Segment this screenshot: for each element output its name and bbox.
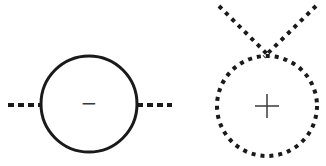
plus-sign: [255, 94, 279, 118]
right-external-line-upper-left: [219, 6, 270, 57]
diagram-canvas: −: [0, 0, 326, 166]
right-external-line-upper-right: [264, 6, 316, 57]
left-figure: −: [8, 56, 172, 152]
minus-sign: −: [81, 91, 98, 115]
right-figure: [217, 6, 317, 156]
loop-diagrams: −: [0, 0, 326, 166]
